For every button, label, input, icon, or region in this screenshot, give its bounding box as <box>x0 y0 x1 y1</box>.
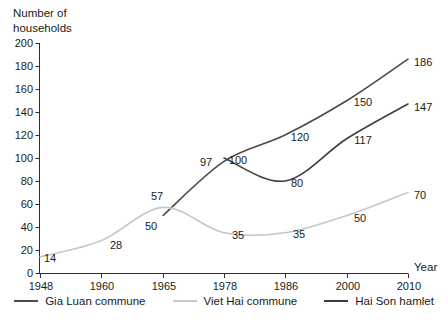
legend-label-gia-luan: Gia Luan commune <box>45 295 145 307</box>
y-tick-label: 160 <box>15 83 33 95</box>
data-label-viet-hai-commune: 35 <box>232 229 244 241</box>
data-label-viet-hai-commune: 57 <box>151 190 163 202</box>
data-label-viet-hai-commune: 35 <box>293 228 305 240</box>
y-tick-label: 40 <box>21 221 33 233</box>
x-tick-label: 2010 <box>397 280 421 292</box>
y-tick-label: 100 <box>15 152 33 164</box>
y-tick-label: 20 <box>21 244 33 256</box>
legend-item-hai-son-hamlet: Hai Son hamlet <box>324 295 434 307</box>
legend: Gia Luan commune Viet Hai commune Hai So… <box>0 295 448 307</box>
x-tick-label: 2000 <box>336 280 360 292</box>
data-label-gia-luan-commune: 97 <box>200 156 212 168</box>
x-tick-label: 1965 <box>152 280 176 292</box>
y-tick-label: 80 <box>21 175 33 187</box>
series-line-viet-hai-commune <box>40 193 408 257</box>
y-tick-label: 140 <box>15 106 33 118</box>
y-tick-label: 0 <box>27 267 33 279</box>
series-line-hai-son-hamlet <box>224 104 408 181</box>
data-label-viet-hai-commune: 70 <box>414 189 426 201</box>
legend-item-viet-hai-commune: Viet Hai commune <box>173 295 298 307</box>
plot-area: 0204060801001201401601802001948196019651… <box>0 0 448 323</box>
y-tick-label: 180 <box>15 60 33 72</box>
household-trend-chart: Number of households 0204060801001201401… <box>0 0 448 323</box>
x-tick-label: 1978 <box>213 280 237 292</box>
data-label-viet-hai-commune: 14 <box>44 252 56 264</box>
y-tick-label: 60 <box>21 198 33 210</box>
data-label-hai-son-hamlet: 117 <box>354 134 372 146</box>
y-tick-label: 200 <box>15 37 33 49</box>
data-label-gia-luan-commune: 50 <box>145 220 157 232</box>
legend-line-swatch-viet-hai <box>173 300 197 302</box>
data-label-viet-hai-commune: 28 <box>110 239 122 251</box>
x-tick-label: 1948 <box>29 280 53 292</box>
data-label-gia-luan-commune: 150 <box>354 96 372 108</box>
x-tick-label: 1960 <box>90 280 114 292</box>
data-label-hai-son-hamlet: 80 <box>291 177 303 189</box>
data-label-hai-son-hamlet: 100 <box>229 154 247 166</box>
x-tick-label: 1986 <box>274 280 298 292</box>
y-tick-label: 120 <box>15 129 33 141</box>
legend-line-swatch-gia-luan <box>14 300 38 302</box>
data-label-viet-hai-commune: 50 <box>354 212 366 224</box>
x-axis-title: Year <box>414 261 437 273</box>
legend-line-swatch-hai-son <box>324 300 348 302</box>
legend-label-hai-son: Hai Son hamlet <box>355 295 434 307</box>
data-label-gia-luan-commune: 186 <box>414 56 432 68</box>
data-label-hai-son-hamlet: 147 <box>414 101 432 113</box>
legend-item-gia-luan-commune: Gia Luan commune <box>14 295 145 307</box>
legend-label-viet-hai: Viet Hai commune <box>204 295 298 307</box>
data-label-gia-luan-commune: 120 <box>291 131 309 143</box>
